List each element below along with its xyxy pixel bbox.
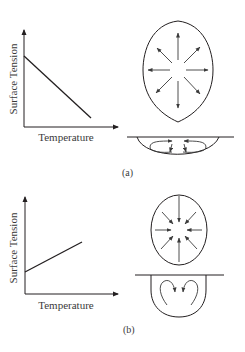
- panel-b: Surface Tension Temperature: [7, 195, 224, 336]
- drop-side-view-a: [127, 137, 234, 154]
- circulation-arrows-icon: [160, 280, 198, 305]
- inward-arrows-icon: [155, 196, 202, 262]
- drop-top-view-a: [143, 21, 213, 122]
- pool-outline: [151, 275, 206, 317]
- x-axis-label: Temperature: [38, 299, 94, 311]
- y-axis-label: Surface Tension: [7, 43, 19, 114]
- panel-a: Surface Tension Temperature: [7, 21, 234, 179]
- figure: Surface Tension Temperature: [0, 0, 245, 352]
- drop-top-view-b: [151, 195, 207, 265]
- outward-arrows-icon: [148, 33, 208, 108]
- graph-b: Surface Tension Temperature: [7, 197, 118, 311]
- pool-outline: [137, 137, 219, 154]
- trend-line-decreasing: [24, 56, 91, 118]
- graph-a: Surface Tension Temperature: [7, 30, 118, 143]
- trend-line-increasing: [25, 242, 82, 272]
- y-axis-label: Surface Tension: [7, 212, 19, 283]
- panel-caption-a: (a): [122, 167, 133, 179]
- drop-side-view-b: [135, 275, 224, 317]
- x-axis-label: Temperature: [38, 131, 94, 143]
- circulation-arrows-icon: [150, 141, 206, 152]
- panel-caption-b: (b): [123, 324, 135, 336]
